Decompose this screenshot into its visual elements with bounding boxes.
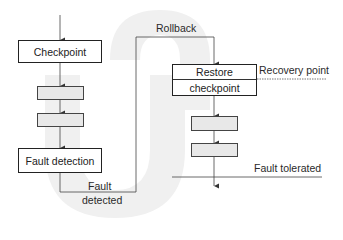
checkpoint-sub-label: checkpoint — [173, 80, 256, 95]
fault-detected-label-1: Fault — [88, 180, 111, 192]
fault-detected-label-2: detected — [82, 194, 122, 206]
process-box-2 — [37, 113, 84, 127]
restore-label: Restore — [173, 65, 256, 80]
checkpoint-box: Checkpoint — [18, 40, 102, 63]
restore-checkpoint-box: Restore checkpoint — [172, 64, 257, 96]
checkpoint-label: Checkpoint — [34, 46, 87, 58]
fault-detection-box: Fault detection — [18, 148, 102, 173]
fault-detection-label: Fault detection — [26, 155, 95, 167]
recovery-point-label: Recovery point — [259, 64, 329, 76]
rollback-label: Rollback — [156, 22, 196, 34]
process-box-1 — [37, 86, 84, 100]
fault-tolerated-label: Fault tolerated — [254, 162, 321, 174]
process-box-3 — [191, 116, 238, 131]
process-box-4 — [191, 143, 238, 157]
